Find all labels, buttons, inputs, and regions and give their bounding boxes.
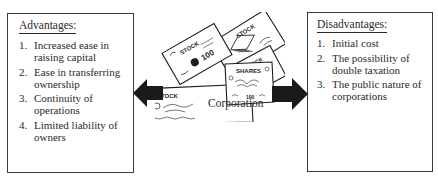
list-item: 1. Increased ease in raising capital bbox=[19, 39, 120, 63]
item-text: Limited liability of bbox=[34, 119, 120, 131]
item-number: 1. bbox=[317, 37, 325, 49]
svg-text:SHARES: SHARES bbox=[236, 68, 261, 74]
corporation-label: Corporation bbox=[208, 97, 264, 110]
disadvantages-list: 1. Initial cost 2. The possibility of do… bbox=[317, 37, 422, 105]
item-number: 2. bbox=[19, 66, 27, 78]
disadvantages-heading: Disadvantages: bbox=[317, 17, 387, 33]
advantages-box: Advantages: 1. Increased ease in raising… bbox=[7, 13, 134, 173]
item-text: raising capital bbox=[34, 51, 120, 63]
disadvantages-box: Disadvantages: 1. Initial cost 2. The po… bbox=[307, 12, 433, 172]
item-text: Increased ease in bbox=[34, 39, 120, 51]
item-text: The public nature of bbox=[332, 78, 422, 90]
item-text: Initial cost bbox=[332, 37, 422, 49]
list-item: 4. Limited liability of owners bbox=[19, 119, 120, 143]
item-text: owners bbox=[34, 131, 120, 143]
item-text: Ease in transferring bbox=[34, 66, 120, 78]
arrow-left-icon bbox=[133, 78, 163, 108]
list-item: 3. Continuity of operations bbox=[19, 92, 120, 116]
list-item: 2. The possibility of double taxation bbox=[317, 52, 422, 76]
list-item: 3. The public nature of corporations bbox=[317, 78, 422, 102]
item-number: 4. bbox=[19, 119, 27, 131]
list-item: 1. Initial cost bbox=[317, 37, 422, 49]
certificate-left: STOCK 100 bbox=[162, 23, 232, 84]
item-number: 3. bbox=[19, 92, 27, 104]
item-text: ownership bbox=[34, 78, 120, 90]
item-text: double taxation bbox=[332, 64, 422, 76]
item-text: corporations bbox=[332, 90, 422, 102]
item-number: 2. bbox=[317, 52, 325, 64]
item-text: The possibility of bbox=[332, 52, 422, 64]
item-number: 1. bbox=[19, 39, 27, 51]
item-text: Continuity of bbox=[34, 92, 120, 104]
item-number: 3. bbox=[317, 78, 325, 90]
item-text: operations bbox=[34, 104, 120, 116]
arrow-right-icon bbox=[272, 77, 308, 111]
advantages-list: 1. Increased ease in raising capital 2. … bbox=[19, 39, 120, 145]
list-item: 2. Ease in transferring ownership bbox=[19, 66, 120, 90]
advantages-heading: Advantages: bbox=[19, 18, 76, 34]
